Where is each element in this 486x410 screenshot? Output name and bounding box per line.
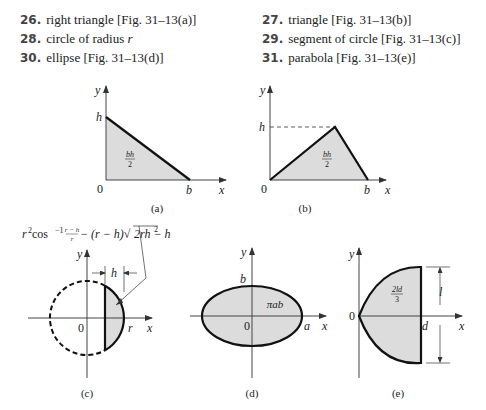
y-label: y [259, 83, 266, 97]
svg-text:r: r [22, 227, 27, 241]
h-label: h [111, 266, 117, 280]
caption-e: (e) [392, 387, 405, 400]
svg-text:−1: −1 [55, 226, 64, 235]
caption-a: (a) [151, 202, 164, 215]
b-label: b [186, 183, 192, 197]
r-label: r [128, 321, 133, 335]
svg-text:r: r [71, 235, 74, 243]
a-label: a [304, 319, 310, 333]
x-label: x [384, 183, 391, 197]
caption-c: (c) [81, 387, 94, 400]
area-denominator: 2 [325, 160, 329, 169]
origin-label: 0 [97, 182, 103, 196]
figure-b-triangle: y h 0 b x bh 2 (b) [259, 83, 391, 215]
x-label: x [218, 183, 225, 197]
area-denominator: 3 [395, 295, 399, 304]
y-label: y [348, 247, 355, 261]
b-label: b [364, 183, 370, 197]
parabola-area [359, 267, 421, 363]
figure-31-13: y h 0 b x bh 2 (a) y h 0 b x bh 2 (b) [0, 0, 486, 410]
d-label: d [422, 319, 429, 333]
origin-label: 0 [261, 182, 267, 196]
svg-text:2rh − h: 2rh − h [134, 227, 171, 241]
b-label: b [240, 272, 246, 286]
svg-text:cos: cos [32, 227, 48, 241]
origin-label: 0 [78, 321, 84, 335]
x-label: x [458, 319, 465, 333]
h-label: h [259, 120, 265, 134]
svg-text:2: 2 [154, 225, 158, 234]
figure-d-ellipse: y b 0 a x πab (d) [190, 245, 328, 400]
y-label: y [94, 83, 101, 97]
figure-a-right-triangle: y h 0 b x bh 2 (a) [94, 83, 226, 215]
triangle-area [270, 127, 368, 180]
l-label: l [439, 285, 443, 299]
svg-text:− (r − h)√: − (r − h)√ [80, 227, 131, 241]
x-label: x [321, 319, 328, 333]
x-label: x [146, 321, 153, 335]
y-label: y [240, 245, 247, 259]
area-denominator: 2 [128, 160, 132, 169]
origin-label: 0 [349, 309, 355, 323]
area-numerator: bh [323, 150, 331, 159]
figure-e-parabola: l y 0 d x 2ld 3 (e) [348, 247, 465, 400]
caption-d: (d) [246, 387, 259, 400]
origin-label: 0 [244, 319, 250, 333]
h-label: h [96, 110, 102, 124]
segment-area-formula: r 2 cos −1 r − h r − (r − h)√ 2rh − h 2 [22, 225, 171, 243]
svg-text:r − h: r − h [65, 226, 80, 234]
area-numerator: 2ld [392, 285, 403, 294]
y-label: y [76, 247, 83, 261]
area-numerator: bh [126, 150, 134, 159]
area-label: πab [267, 298, 284, 310]
caption-b: (b) [299, 202, 312, 215]
figure-c-circle-segment: h y 0 r x (c) r 2 cos −1 r − h r − (r − … [22, 225, 171, 400]
